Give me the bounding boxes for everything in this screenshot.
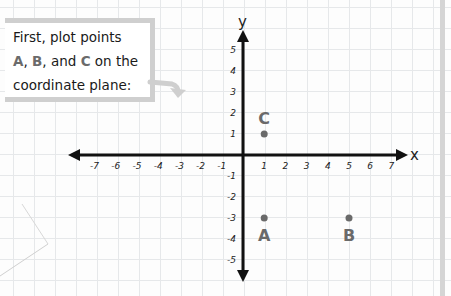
x-tick-label: 2 — [283, 161, 289, 171]
x-axis-right-arrow-icon — [396, 149, 408, 161]
y-tick-label: -3 — [227, 213, 236, 223]
coordinate-plane: x y -7-6-5-4-3-2-11234567 54321-1-2-3-4-… — [0, 0, 451, 296]
y-tick-label: -4 — [227, 234, 236, 244]
y-axis-up-arrow-icon — [237, 30, 249, 42]
point-b-dot — [346, 215, 353, 222]
y-axis-label: y — [238, 13, 247, 31]
x-tick-label: -5 — [133, 161, 142, 171]
x-tick-label: -2 — [196, 161, 205, 171]
x-tick-label: 5 — [346, 161, 352, 171]
y-tick-label: 5 — [230, 45, 236, 55]
y-tick-label: 3 — [230, 87, 236, 97]
x-tick-label: 4 — [325, 161, 331, 171]
y-tick-label: -2 — [227, 192, 236, 202]
point-c-label: C — [258, 109, 270, 128]
x-tick-label: 1 — [261, 161, 267, 171]
plotted-points: ABC — [258, 109, 355, 245]
y-tick-label: 1 — [230, 129, 236, 139]
point-a-dot — [261, 215, 268, 222]
x-tick-label: -3 — [175, 161, 184, 171]
y-axis-down-arrow-icon — [237, 270, 249, 282]
x-tick-label: 3 — [304, 161, 310, 171]
y-tick-label: -5 — [227, 255, 236, 265]
x-tick-label: -7 — [90, 161, 99, 171]
y-tick-label: 4 — [230, 66, 236, 76]
point-a-label: A — [258, 226, 271, 245]
x-tick-label: 7 — [389, 161, 395, 171]
x-axis-left-arrow-icon — [68, 149, 80, 161]
y-tick-label: 2 — [230, 108, 236, 118]
x-tick-label: -6 — [111, 161, 120, 171]
callout-arrow-head-icon — [170, 88, 186, 98]
x-tick-label: -1 — [217, 161, 226, 171]
x-tick-label: -4 — [154, 161, 163, 171]
point-c-dot — [261, 131, 268, 138]
x-tick-label: 6 — [367, 161, 373, 171]
x-axis-label: x — [410, 146, 419, 164]
point-b-label: B — [343, 226, 355, 245]
y-tick-label: -1 — [227, 171, 236, 181]
